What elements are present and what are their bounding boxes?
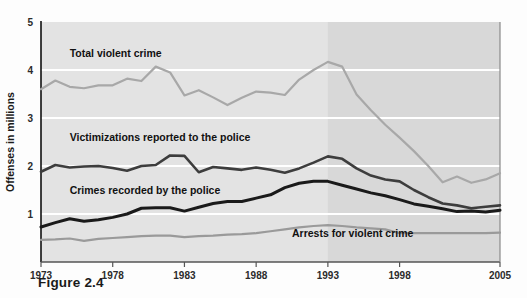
y-tick-label-1: 1 xyxy=(27,209,33,220)
violent-crime-trend-chart: 197319781983198819931998200512345Offense… xyxy=(0,0,527,298)
x-tick-label-1978: 1978 xyxy=(102,270,125,281)
y-axis-title: Offenses in millions xyxy=(4,92,16,192)
y-tick-label-3: 3 xyxy=(27,113,33,124)
series-label-crimes-recorded-by-the-police: Crimes recorded by the police xyxy=(70,184,221,196)
series-label-arrests-for-violent-crime: Arrests for violent crime xyxy=(292,227,414,239)
x-tick-label-1988: 1988 xyxy=(245,270,268,281)
y-tick-label-5: 5 xyxy=(27,17,33,28)
y-tick-label-2: 2 xyxy=(27,161,33,172)
x-tick-label-1983: 1983 xyxy=(173,270,196,281)
highlight-band xyxy=(328,22,500,262)
x-tick-label-1998: 1998 xyxy=(388,270,411,281)
series-label-victimizations-reported-to-the-police: Victimizations reported to the police xyxy=(70,131,251,143)
x-tick-label-1993: 1993 xyxy=(317,270,340,281)
x-tick-label-2005: 2005 xyxy=(489,270,512,281)
figure-container: 197319781983198819931998200512345Offense… xyxy=(0,0,527,298)
series-label-total-violent-crime: Total violent crime xyxy=(70,47,162,59)
figure-caption: Figure 2.4 xyxy=(38,275,104,290)
y-tick-label-4: 4 xyxy=(27,65,33,76)
